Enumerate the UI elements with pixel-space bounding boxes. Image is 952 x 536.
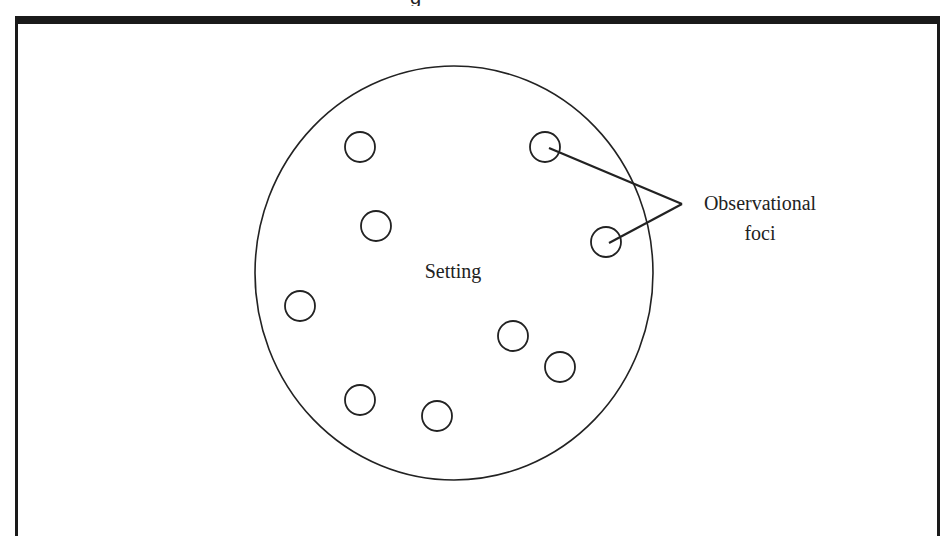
pointer-line <box>609 204 682 243</box>
observational-focus-circle <box>345 385 375 415</box>
observational-focus-circle <box>285 291 315 321</box>
observational-focus-circle <box>591 227 621 257</box>
foci-pointer-lines <box>549 148 682 243</box>
observational-focus-circle <box>361 211 391 241</box>
observational-focus-circle <box>345 132 375 162</box>
observational-focus-circle <box>545 352 575 382</box>
observational-focus-circle <box>530 132 560 162</box>
observational-focus-circle <box>498 321 528 351</box>
pointer-line <box>549 148 682 204</box>
observational-focus-circle <box>422 401 452 431</box>
observational-foci-label-line1: Observational <box>704 192 817 214</box>
observational-foci-label-line2: foci <box>744 222 776 244</box>
setting-label: Setting <box>425 260 482 283</box>
